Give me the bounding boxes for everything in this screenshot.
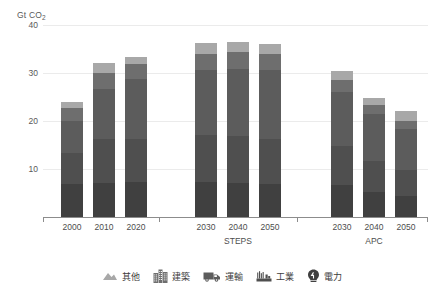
lightbulb-icon xyxy=(307,269,320,283)
bar-segment xyxy=(395,196,417,217)
bar[interactable] xyxy=(125,57,147,217)
bar-segment xyxy=(227,52,249,68)
legend-item[interactable]: 運輸 xyxy=(203,270,243,283)
legend-item-label: 電力 xyxy=(324,270,342,283)
bar-segment xyxy=(195,135,217,182)
bar-segment xyxy=(195,70,217,135)
truck-icon xyxy=(203,271,221,282)
bar-segment xyxy=(331,185,353,217)
bar-segment xyxy=(363,105,385,114)
mountain-icon xyxy=(102,271,118,281)
chart-legend: 其他建築運輸工業電力 xyxy=(0,263,443,289)
bar[interactable] xyxy=(395,110,417,217)
bar-segment xyxy=(395,121,417,129)
bar-segment xyxy=(227,136,249,183)
bar-segment xyxy=(227,42,249,52)
bar-segment xyxy=(331,71,353,81)
bar-segment xyxy=(125,57,147,64)
bar-segment xyxy=(259,139,281,184)
bar-segment xyxy=(227,183,249,217)
bar-segment xyxy=(195,54,217,70)
x-tick-label: 2050 xyxy=(261,222,280,232)
axis-tick xyxy=(43,217,44,222)
factory-icon xyxy=(256,270,272,282)
bar-segment xyxy=(61,121,83,153)
y-axis-labels: 10203040 xyxy=(8,0,38,303)
bar-segment xyxy=(331,92,353,146)
bar-segment xyxy=(93,89,115,139)
legend-item[interactable]: 工業 xyxy=(256,270,294,283)
bar-segment xyxy=(395,170,417,197)
y-axis-title-subscript: 2 xyxy=(42,14,46,21)
bar-segment xyxy=(395,111,417,122)
bar-segment xyxy=(331,80,353,92)
bar-segment xyxy=(363,98,385,105)
legend-item[interactable]: 其他 xyxy=(102,270,140,283)
bar-segment xyxy=(195,182,217,217)
axis-tick xyxy=(427,217,428,222)
bar-segment xyxy=(93,183,115,217)
bar-segment xyxy=(125,139,147,182)
legend-item[interactable]: 電力 xyxy=(307,269,342,283)
bar-segment xyxy=(125,79,147,139)
legend-item-label: 其他 xyxy=(122,270,140,283)
y-tick-label: 40 xyxy=(12,20,38,30)
x-tick-label: 2020 xyxy=(127,222,146,232)
x-axis-line xyxy=(43,217,428,218)
bar-segment xyxy=(363,161,385,192)
bar-segment xyxy=(259,44,281,54)
bar-segment xyxy=(195,43,217,54)
building-icon xyxy=(153,269,168,283)
bar[interactable] xyxy=(363,98,385,217)
bar-segment xyxy=(93,139,115,183)
y-tick-label: 20 xyxy=(12,116,38,126)
bar-segment xyxy=(363,192,385,217)
x-tick-label: 2030 xyxy=(333,222,352,232)
bar-segment xyxy=(61,153,83,185)
y-tick-label: 30 xyxy=(12,68,38,78)
bar[interactable] xyxy=(93,63,115,217)
x-tick-label: 2010 xyxy=(95,222,114,232)
bar-segment xyxy=(259,184,281,217)
y-tick-label: 10 xyxy=(12,164,38,174)
bar[interactable] xyxy=(331,71,353,217)
bar-segment xyxy=(93,63,115,73)
bar-segment xyxy=(125,64,147,79)
bar-segment xyxy=(395,129,417,170)
bar-segment xyxy=(363,114,385,162)
bar-segment xyxy=(93,73,115,89)
bar[interactable] xyxy=(195,43,217,217)
x-tick-label: 2030 xyxy=(197,222,216,232)
x-tick-label: 2050 xyxy=(397,222,416,232)
bar[interactable] xyxy=(227,42,249,217)
axis-tick xyxy=(297,217,298,222)
stacked-bar-chart: Gt CO2 10203040 200020102020203020402050… xyxy=(0,0,443,303)
x-tick-label: 2040 xyxy=(365,222,384,232)
x-tick-label: 2040 xyxy=(229,222,248,232)
bar-segment xyxy=(259,54,281,70)
plot-area xyxy=(43,25,428,217)
bar-segment xyxy=(61,108,83,121)
bar-segment xyxy=(227,69,249,136)
x-group-label: APC xyxy=(365,236,382,246)
bar-segment xyxy=(259,70,281,139)
x-group-label: STEPS xyxy=(224,236,252,246)
bar-segment xyxy=(125,182,147,217)
bar[interactable] xyxy=(259,44,281,217)
legend-item-label: 建築 xyxy=(172,270,190,283)
bar-segment xyxy=(61,184,83,217)
legend-item-label: 工業 xyxy=(276,270,294,283)
bar-segment xyxy=(331,146,353,185)
bar[interactable] xyxy=(61,102,83,217)
x-tick-label: 2000 xyxy=(63,222,82,232)
legend-item[interactable]: 建築 xyxy=(153,269,190,283)
axis-tick xyxy=(159,217,160,222)
legend-item-label: 運輸 xyxy=(225,270,243,283)
